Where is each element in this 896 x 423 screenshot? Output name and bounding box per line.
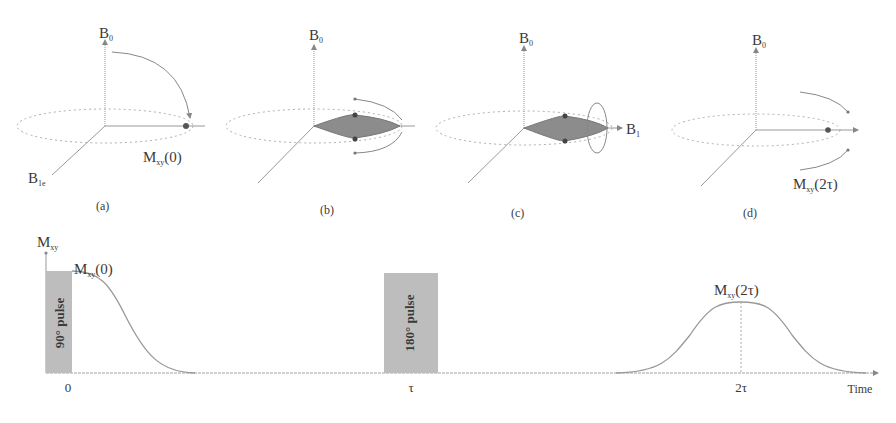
spin-fast (563, 114, 568, 119)
spin-slow (353, 137, 358, 142)
pulse-180-label: 180° pulse (402, 294, 417, 351)
arrow-head (846, 148, 849, 151)
fid-curve (72, 271, 195, 373)
caption-b: (b) (320, 203, 334, 217)
tick-0: 0 (65, 380, 72, 395)
dephasing-fan (314, 115, 400, 138)
tip-arrow (112, 52, 190, 118)
b0-label: B0 (309, 27, 323, 45)
dephasing-fan (524, 116, 608, 141)
spin-fast (353, 113, 358, 118)
timing-y-label: Mxy (37, 234, 58, 252)
arrow-head (353, 97, 356, 100)
timing-diagram: Mxy 90° pulse Mxy(0) 180° pulse Mxy(2τ) … (37, 234, 878, 396)
b1-label: B1 (626, 121, 640, 139)
x-axis (701, 130, 756, 186)
panel-d: B0 Mxy(2τ) (d) (672, 32, 858, 220)
rotation-arrow-bottom (800, 150, 848, 170)
refocused-magnetization-dot (825, 127, 831, 133)
mxy2tau-label: Mxy(2τ) (793, 176, 838, 194)
fid-label: Mxy(0) (74, 261, 113, 279)
spin-slow (563, 139, 568, 144)
panel-b: B0 (b) (226, 27, 415, 217)
b1-label: B1e (28, 170, 46, 188)
tick-2tau: 2τ (735, 380, 747, 395)
x-axis (468, 128, 524, 183)
pulse-90-label: 90° pulse (52, 298, 67, 349)
rotation-arrow-top (800, 92, 848, 112)
axis-tip (44, 251, 47, 254)
caption-d: (d) (743, 206, 757, 220)
panel-a: B0 B1e Mxy(0) (a) (17, 25, 205, 213)
tick-tau: τ (408, 380, 413, 395)
x-axis (258, 126, 314, 183)
time-axis-label: Time (848, 382, 873, 396)
b0-label: B0 (752, 32, 766, 50)
arrow-head (353, 151, 356, 154)
x-axis (52, 126, 105, 175)
b0-label: B0 (519, 30, 533, 48)
mxy0-label: Mxy(0) (143, 149, 182, 167)
arrow-head (846, 110, 849, 113)
b0-label: B0 (99, 25, 113, 43)
echo-label: Mxy(2τ) (714, 282, 759, 300)
panel-c: B0 B1 (c) (436, 30, 640, 220)
magnetization-dot (183, 123, 189, 129)
caption-a: (a) (96, 199, 109, 213)
caption-c: (c) (511, 206, 524, 220)
spin-echo-diagram: B0 B1e Mxy(0) (a) B0 (b) B0 B1 (c) (0, 0, 896, 423)
